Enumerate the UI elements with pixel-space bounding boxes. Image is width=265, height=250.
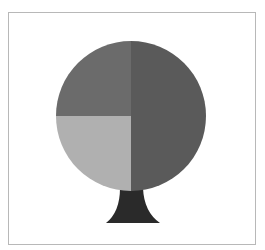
trunk-shape [106,188,160,223]
pie-slice-bottom-left [56,116,131,191]
pie-slice-right-half [131,41,206,191]
pie-slice-top-left [56,41,131,116]
tree-pie-chart [0,0,265,250]
